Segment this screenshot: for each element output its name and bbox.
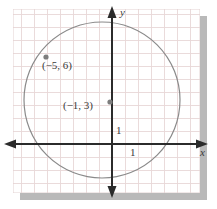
coordinate-plane-svg	[0, 0, 217, 209]
point-label-on-circle: (−5, 6)	[42, 59, 72, 71]
y-axis-arrow-down	[108, 186, 117, 198]
figure-container: (−5, 6) (−1, 3) 1 1 x y	[0, 0, 217, 209]
y-axis-label: y	[120, 6, 125, 18]
point-marker-center	[107, 99, 112, 104]
point-label-center: (−1, 3)	[63, 99, 93, 111]
grid-lines	[13, 9, 200, 193]
x-axis-arrow-left	[4, 140, 16, 149]
y-axis-arrow-up	[108, 6, 117, 18]
y-unit-label: 1	[116, 124, 122, 136]
x-unit-label: 1	[130, 146, 136, 158]
x-axis-label: x	[200, 146, 205, 158]
